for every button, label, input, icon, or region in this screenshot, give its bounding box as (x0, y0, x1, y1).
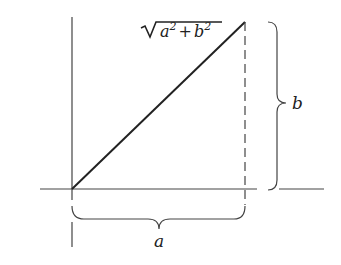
horizontal-brace (72, 206, 245, 229)
vertical-brace (268, 22, 286, 190)
label-a: a (154, 231, 164, 251)
svg-text:a2+b2: a2+b2 (160, 20, 211, 41)
label-b: b (292, 93, 303, 113)
hypotenuse-label: a2+b2 (141, 20, 222, 41)
hypotenuse-line (72, 22, 245, 189)
diagram-canvas: a2+b2 b a (0, 0, 341, 265)
